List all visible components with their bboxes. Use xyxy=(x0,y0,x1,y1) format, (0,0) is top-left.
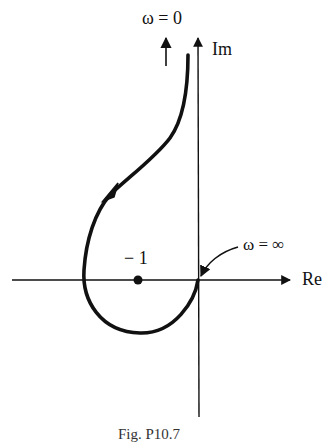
imaginary-axis-label: Im xyxy=(212,40,232,58)
omega-zero-label: ω = 0 xyxy=(142,9,182,27)
minus-one-label: − 1 xyxy=(124,249,148,267)
critical-point-minus-one xyxy=(134,276,143,285)
figure-caption: Fig. P10.7 xyxy=(118,427,180,442)
omega-infinity-pointer xyxy=(201,247,238,276)
direction-arrow-icon xyxy=(103,183,118,201)
imaginary-axis xyxy=(198,38,199,417)
real-axis-label: Re xyxy=(302,270,322,288)
nyquist-curve xyxy=(84,55,198,333)
omega-infinity-label: ω = ∞ xyxy=(243,236,284,253)
